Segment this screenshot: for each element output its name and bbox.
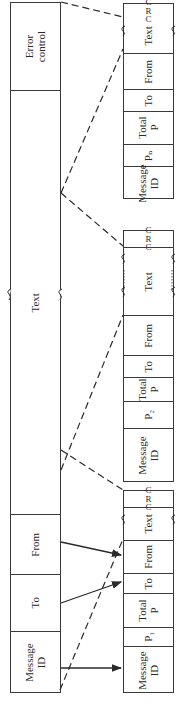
field-label: To <box>143 578 155 589</box>
field-label: Total P <box>137 378 160 400</box>
field-label: Pₙ <box>143 150 155 161</box>
field-label: To <box>30 597 42 608</box>
packet-n: C R C Text From To Total P Pₙ Message ID <box>123 3 174 199</box>
field-label: Total P <box>137 599 160 621</box>
field-message-id: Message ID <box>11 631 60 694</box>
field-from: From <box>11 514 60 574</box>
field-label: From <box>143 545 155 569</box>
field-message-id: Message ID <box>124 166 173 200</box>
field-text: Text <box>11 90 60 514</box>
field-crc: C R C <box>124 231 173 247</box>
field-from: From <box>124 540 173 573</box>
field-from: From <box>124 315 173 355</box>
field-total-p: Total P <box>124 377 173 401</box>
field-label: P₂ <box>143 410 155 420</box>
field-label: From <box>143 60 155 84</box>
field-to: To <box>124 89 173 111</box>
field-label: Total P <box>137 117 160 139</box>
field-packet-number: Pₙ <box>124 144 173 166</box>
field-from: From <box>124 53 173 89</box>
field-label: Text <box>143 26 155 45</box>
field-packet-number: P₂ <box>124 401 173 428</box>
field-label: To <box>143 95 155 106</box>
field-label: Message ID <box>137 164 160 203</box>
field-message-id: Message ID <box>124 646 173 694</box>
field-label: Error control <box>24 31 47 62</box>
field-label: Text <box>143 272 155 291</box>
field-crc: C R C <box>124 4 173 18</box>
field-total-p: Total P <box>124 593 173 627</box>
field-label: From <box>30 533 42 557</box>
field-packet-number: P₁ <box>124 627 173 646</box>
field-total-p: Total P <box>124 111 173 144</box>
field-label: Text <box>143 514 155 533</box>
field-label: Message ID <box>24 644 47 683</box>
field-label: Message ID <box>137 651 160 690</box>
original-message: Error control Text From To Message ID <box>10 2 61 693</box>
field-to: To <box>124 355 173 377</box>
field-label: To <box>143 361 155 372</box>
field-label: P₁ <box>143 632 155 642</box>
field-text: Text <box>124 507 173 540</box>
field-label: Message ID <box>137 437 160 476</box>
field-label: From <box>143 324 155 348</box>
field-text: Text <box>124 247 173 315</box>
field-to: To <box>124 573 173 593</box>
field-to: To <box>11 574 60 631</box>
field-text: Text <box>124 18 173 53</box>
packet-1: C R C Text From To Total P P₁ Message ID <box>123 490 174 693</box>
field-crc: C R C <box>124 491 173 507</box>
field-message-id: Message ID <box>124 428 173 483</box>
field-error-control: Error control <box>11 3 60 90</box>
field-label: Text <box>30 293 42 312</box>
packet-2: C R C Text From To Total P P₂ Message ID <box>123 230 174 482</box>
